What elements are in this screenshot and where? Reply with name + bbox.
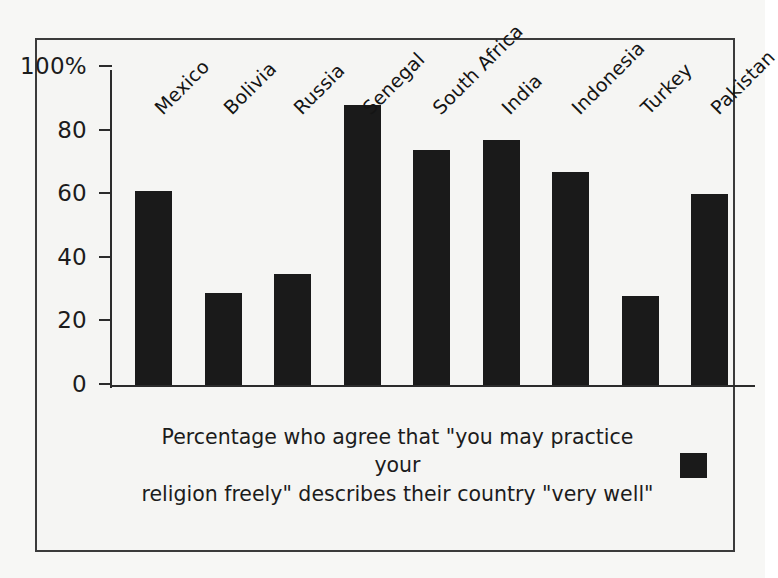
x-axis-label: Mexico — [150, 55, 213, 118]
x-axis-label: Pakistan — [706, 46, 778, 119]
y-axis-tick: 60 — [99, 192, 112, 194]
bar-rect — [552, 172, 589, 385]
y-axis-tick-label: 0 — [72, 371, 87, 397]
x-axis-label: Turkey — [636, 58, 696, 118]
bar-rect — [483, 140, 520, 385]
bar-rect — [274, 274, 311, 385]
legend-color-swatch — [680, 453, 707, 478]
bar-rect — [622, 296, 659, 385]
bar-rect — [135, 191, 172, 385]
y-axis-tick: 20 — [99, 319, 112, 321]
chart-frame: 100%806040200 MexicoBoliviaRussiaSenegal… — [35, 38, 735, 552]
y-axis-tick: 80 — [99, 129, 112, 131]
y-axis-tick-label: 80 — [57, 117, 87, 143]
x-axis-label: Senegal — [358, 48, 429, 119]
legend-line-2: religion freely" describes their country… — [141, 482, 653, 506]
x-axis-label: India — [497, 69, 546, 118]
bar-rect — [205, 293, 242, 385]
y-axis-tick-label: 40 — [57, 244, 87, 270]
x-axis-label: Bolivia — [219, 57, 280, 118]
y-axis-tick-label: 100% — [20, 53, 87, 79]
y-axis-tick: 100% — [99, 65, 112, 67]
y-axis-tick: 0 — [99, 383, 112, 385]
y-axis-tick-label: 60 — [57, 180, 87, 206]
chart-legend: Percentage who agree that "you may pract… — [72, 423, 772, 508]
bar-rect — [691, 194, 728, 385]
x-axis-line — [110, 385, 755, 387]
y-axis-tick-label: 20 — [57, 307, 87, 333]
plot-area: 100%806040200 MexicoBoliviaRussiaSenegal… — [110, 67, 755, 387]
x-axis-label: Russia — [289, 59, 349, 119]
y-axis-line — [110, 70, 112, 388]
legend-line-1: Percentage who agree that "you may pract… — [162, 425, 634, 477]
bar-rect — [344, 105, 381, 385]
bar-rect — [413, 150, 450, 385]
x-axis-label: Indonesia — [567, 37, 649, 119]
legend-label: Percentage who agree that "you may pract… — [138, 423, 658, 508]
y-axis-tick: 40 — [99, 256, 112, 258]
